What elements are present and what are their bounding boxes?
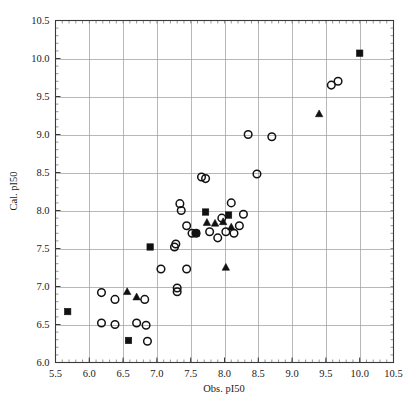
y-tick-label: 8.0 [36,205,49,216]
marker-open-circle [141,296,149,304]
y-tick-labels: 6.06.57.07.58.08.59.09.510.010.5 [31,15,49,368]
x-tick-label: 7.5 [184,368,197,379]
marker-open-circle [227,199,235,207]
marker-open-circle [144,337,152,345]
plot-frame [56,21,394,363]
y-tick-label: 7.0 [36,281,49,292]
y-tick-label: 9.5 [36,91,49,102]
marker-open-circle [111,321,119,329]
x-tick-label: 5.5 [49,368,62,379]
marker-open-circle [244,131,252,139]
y-tick-label: 7.5 [36,243,49,254]
x-tick-label: 8.0 [218,368,231,379]
y-tick-label: 10.0 [31,53,49,64]
marker-filled-triangle [203,219,210,226]
x-tick-label: 9.5 [319,368,332,379]
marker-filled-square [147,244,153,250]
plot-canvas: 5.56.06.57.07.58.08.59.09.510.010.5 6.06… [0,0,412,412]
data-markers [64,50,362,345]
x-tick-labels: 5.56.06.57.07.58.08.59.09.510.010.5 [49,368,403,379]
y-tick-label: 8.5 [36,167,49,178]
marker-open-circle [183,265,191,273]
x-tick-label: 10.0 [351,368,369,379]
gridlines [56,21,394,363]
marker-filled-square [193,230,199,236]
x-axis-title: Obs. pI50 [203,383,244,394]
y-axis-title: Cal. pI50 [8,171,19,210]
marker-filled-triangle [315,110,322,117]
plot-border [56,21,394,363]
marker-filled-square [225,212,231,218]
axis-ticks [56,21,394,363]
x-tick-label: 9.0 [286,368,299,379]
y-tick-label: 6.0 [36,357,49,368]
marker-filled-triangle [123,288,130,295]
x-tick-label: 6.5 [117,368,130,379]
marker-open-circle [334,78,342,86]
marker-open-circle [183,222,191,230]
marker-open-circle [253,170,261,178]
marker-open-circle [206,228,214,236]
marker-open-circle [268,133,276,141]
marker-open-circle [230,230,238,238]
scatter-plot-figure: 5.56.06.57.07.58.08.59.09.510.010.5 6.06… [0,0,412,412]
y-tick-label: 6.5 [36,319,49,330]
marker-filled-square [357,50,363,56]
marker-filled-triangle [133,293,140,300]
x-tick-label: 8.5 [252,368,265,379]
marker-filled-square [125,337,131,343]
marker-filled-triangle [211,219,218,226]
marker-filled-triangle [228,223,235,230]
marker-filled-square [202,209,208,215]
x-tick-label: 7.0 [150,368,163,379]
marker-filled-square [64,308,70,314]
marker-open-circle [111,296,119,304]
marker-filled-triangle [222,263,229,270]
marker-open-circle [214,234,222,242]
marker-open-circle [98,289,106,297]
x-tick-label: 6.0 [83,368,96,379]
x-tick-label: 10.5 [384,368,402,379]
marker-open-circle [236,222,244,230]
y-tick-label: 10.5 [31,15,49,26]
marker-open-circle [157,265,165,273]
y-tick-label: 9.0 [36,129,49,140]
